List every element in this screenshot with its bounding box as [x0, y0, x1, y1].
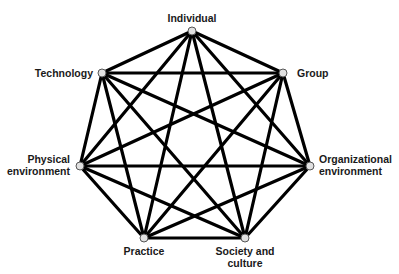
diagram-canvas: Individual Group Organizational environm…	[0, 0, 399, 274]
node-individual	[188, 27, 196, 35]
edge-individual-technology	[102, 31, 192, 73]
label-individual: Individual	[162, 12, 222, 24]
label-physical-environment: Physical environment	[0, 153, 70, 177]
node-physical	[76, 162, 84, 170]
label-group: Group	[297, 67, 329, 79]
label-practice: Practice	[114, 245, 174, 257]
complete-graph	[0, 0, 399, 274]
label-society-and-culture: Society and culture	[205, 245, 285, 269]
node-technology	[98, 69, 106, 77]
edge-group-physical	[80, 73, 283, 166]
edge-individual-group	[192, 31, 283, 73]
edge-society-physical	[80, 166, 245, 238]
node-practice	[140, 234, 148, 242]
node-society	[241, 234, 249, 242]
node-organizational	[306, 162, 314, 170]
node-group	[279, 69, 287, 77]
edge-organizational-practice	[144, 166, 310, 238]
edge-group-practice	[144, 73, 283, 238]
label-organizational-environment: Organizational environment	[319, 153, 392, 177]
label-technology: Technology	[0, 67, 93, 79]
